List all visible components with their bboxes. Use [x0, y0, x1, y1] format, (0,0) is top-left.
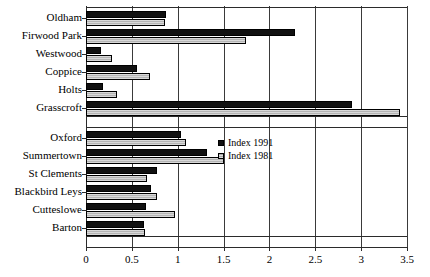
plot-area	[86, 6, 407, 247]
bar-1991	[86, 131, 181, 138]
bar-group-row	[86, 184, 407, 202]
category-label-barton: Barton	[0, 222, 82, 233]
category-label-blackbird-leys: Blackbird Leys	[0, 186, 82, 197]
bar-1991	[86, 11, 166, 18]
x-axis-line	[86, 247, 407, 248]
x-tick-label: 1	[175, 253, 181, 265]
bar-1991	[86, 185, 151, 192]
bar-1981	[86, 73, 150, 80]
bar-group-row	[86, 82, 407, 100]
bar-1991	[86, 29, 295, 36]
legend: Index 1991 Index 1981	[218, 136, 273, 162]
legend-item-index-1981: Index 1981	[218, 149, 273, 162]
x-tick	[178, 247, 179, 251]
legend-item-index-1991: Index 1991	[218, 136, 273, 149]
bar-1991	[86, 221, 144, 228]
bar-1981	[86, 193, 157, 200]
legend-label-1991: Index 1991	[228, 136, 273, 149]
gridline-3-5	[407, 6, 408, 247]
x-tick-label: 1.5	[217, 253, 231, 265]
x-tick-label: 0.5	[125, 253, 139, 265]
bar-group-row	[86, 64, 407, 82]
bar-group-row	[86, 220, 407, 238]
bar-1991	[86, 167, 157, 174]
bar-1981	[86, 157, 224, 164]
category-label-firwood-park: Firwood Park	[0, 30, 82, 41]
x-tick	[132, 247, 133, 251]
bar-1981	[86, 37, 246, 44]
category-label-westwood: Westwood	[0, 48, 82, 59]
bar-1981	[86, 139, 186, 146]
bar-group-row	[86, 100, 407, 118]
x-tick	[407, 247, 408, 251]
bar-1981	[86, 109, 400, 116]
bar-1991	[86, 203, 146, 210]
bar-1991	[86, 65, 137, 72]
category-label-cutteslowe: Cutteslowe	[0, 204, 82, 215]
bar-group-row	[86, 202, 407, 220]
x-tick-label: 3.5	[400, 253, 414, 265]
bar-1981	[86, 91, 117, 98]
bar-1991	[86, 83, 103, 90]
bar-group-row	[86, 10, 407, 28]
category-label-st-clements: St Clements	[0, 168, 82, 179]
bar-1991	[86, 47, 101, 54]
x-tick	[224, 247, 225, 251]
category-label-grasscroft: Grasscroft	[0, 102, 82, 113]
x-tick	[361, 247, 362, 251]
bar-1991	[86, 149, 207, 156]
category-label-holts: Holts	[0, 84, 82, 95]
category-label-coppice: Coppice	[0, 66, 82, 77]
x-tick	[269, 247, 270, 251]
x-tick-label: 2	[267, 253, 273, 265]
x-tick-label: 2.5	[308, 253, 322, 265]
bar-group-row	[86, 166, 407, 184]
legend-swatch-icon-1991	[218, 140, 224, 146]
bar-1981	[86, 229, 145, 236]
x-tick-label: 3	[358, 253, 364, 265]
bar-chart: OldhamFirwood ParkWestwoodCoppiceHoltsGr…	[0, 0, 430, 277]
category-label-oxford: Oxford	[0, 132, 82, 143]
x-tick	[315, 247, 316, 251]
bar-1981	[86, 211, 175, 218]
category-label-summertown: Summertown	[0, 150, 82, 161]
bar-group-row	[86, 46, 407, 64]
legend-label-1981: Index 1981	[228, 149, 273, 162]
x-tick-label: 0	[83, 253, 89, 265]
legend-swatch-icon-1981	[218, 153, 224, 159]
bar-1981	[86, 175, 147, 182]
category-label-oldham: Oldham	[0, 12, 82, 23]
bar-group-row	[86, 28, 407, 46]
bar-1991	[86, 101, 352, 108]
bar-1981	[86, 55, 112, 62]
x-tick	[86, 247, 87, 251]
bar-1981	[86, 19, 165, 26]
